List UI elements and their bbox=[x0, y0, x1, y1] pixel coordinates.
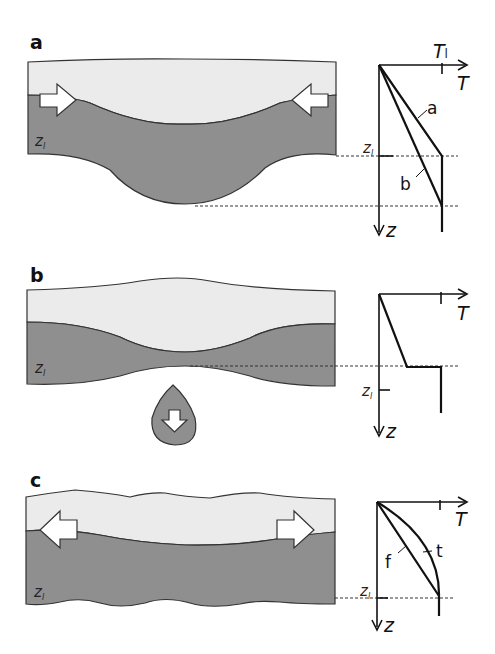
t-axis-label: T bbox=[455, 508, 468, 530]
t-axis-label: T bbox=[457, 302, 470, 324]
curve-label-a: a bbox=[427, 98, 437, 118]
panel-b-label: b bbox=[30, 264, 44, 286]
figure-canvas: a zl Tl T z zl bbox=[0, 0, 495, 654]
curve-label-b: b bbox=[400, 174, 411, 194]
panel-a-cross-section: zl bbox=[28, 59, 458, 206]
zl-graph-label: zl bbox=[361, 382, 373, 401]
panel-c-geotherm-graph: T z zl f t bbox=[359, 497, 468, 636]
panel-c-cross-section: zl bbox=[26, 490, 455, 606]
panel-c: c zl T z zl f t bbox=[26, 469, 468, 636]
leader-a bbox=[418, 110, 427, 118]
panel-b: b zl T z zl bbox=[27, 264, 470, 445]
leader-b bbox=[416, 169, 424, 177]
zl-graph-label: zl bbox=[362, 139, 374, 158]
curve-label-t: t bbox=[436, 541, 443, 561]
geotherm-curve-a bbox=[379, 65, 442, 232]
z-axis-label: z bbox=[385, 219, 397, 241]
t-axis-label: T bbox=[457, 72, 470, 94]
tl-label: Tl bbox=[433, 40, 448, 62]
zl-graph-label: zl bbox=[359, 582, 371, 601]
panel-a-geotherm-graph: Tl T z zl a b bbox=[362, 40, 470, 241]
leader-f bbox=[398, 546, 406, 553]
geotherm-curve bbox=[379, 294, 441, 413]
z-axis-label: z bbox=[385, 420, 397, 442]
panel-a: a zl Tl T z zl bbox=[28, 31, 470, 241]
panel-a-label: a bbox=[30, 31, 43, 53]
z-axis-label: z bbox=[383, 614, 395, 636]
panel-c-label: c bbox=[30, 469, 41, 491]
leader-t bbox=[423, 551, 432, 552]
curve-label-f: f bbox=[385, 552, 392, 572]
